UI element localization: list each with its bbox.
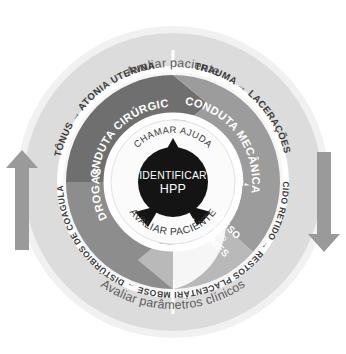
center-line-1: IDENTIFICAR: [139, 170, 207, 181]
diagram-canvas: Avaliar paciente Avaliar parâmetros clín…: [0, 0, 346, 354]
hpp-cycle-diagram: Avaliar paciente Avaliar parâmetros clín…: [0, 0, 346, 354]
center-line-2: HPP: [160, 182, 186, 196]
